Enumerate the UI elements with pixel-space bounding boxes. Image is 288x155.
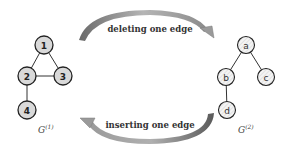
svg-text:a: a [243, 41, 249, 51]
node-b: b [218, 69, 235, 86]
svg-text:c: c [264, 73, 269, 83]
svg-text:b: b [223, 73, 229, 83]
svg-text:d: d [224, 106, 230, 116]
graph-2: a b c d G(2) [218, 37, 275, 136]
delete-edge-label: deleting one edge [107, 24, 193, 34]
graph-1: 1 2 3 4 G(1) [18, 36, 72, 135]
insert-edge-arrow: inserting one edge [80, 113, 214, 144]
svg-text:2: 2 [24, 72, 30, 82]
node-4: 4 [18, 101, 36, 119]
insert-edge-label: inserting one edge [105, 120, 195, 130]
node-1: 1 [35, 36, 53, 54]
delete-edge-arrow: deleting one edge [79, 10, 214, 41]
arrowhead-right-icon [200, 26, 214, 38]
svg-text:4: 4 [24, 106, 30, 116]
node-c: c [258, 69, 275, 86]
node-3: 3 [54, 67, 72, 85]
diagram-canvas: deleting one edge inserting one edge 1 2… [0, 0, 288, 155]
node-d: d [219, 102, 236, 119]
svg-text:1: 1 [41, 41, 47, 51]
svg-text:3: 3 [60, 72, 66, 82]
graph-1-label: G(1) [38, 123, 54, 135]
graph-2-label: G(2) [238, 123, 254, 135]
node-a: a [238, 37, 255, 54]
node-2: 2 [18, 67, 36, 85]
